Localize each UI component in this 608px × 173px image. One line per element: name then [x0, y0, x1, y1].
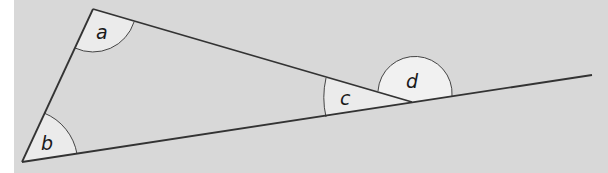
side-top-to-right — [93, 9, 412, 102]
angle-d-label: d — [406, 70, 419, 92]
angle-b-label: b — [41, 132, 53, 154]
triangle-diagram: a b c d — [0, 0, 608, 173]
angle-c-label: c — [340, 87, 351, 109]
base-line-extended — [22, 75, 592, 162]
angle-a-label: a — [96, 21, 108, 43]
